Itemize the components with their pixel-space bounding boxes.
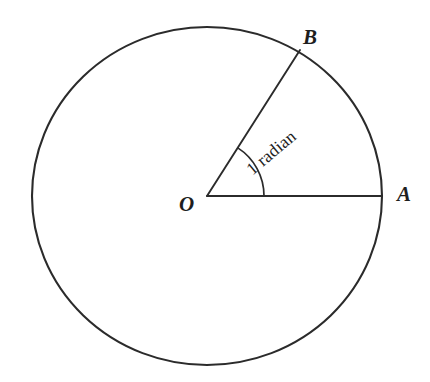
label-o: O (179, 192, 194, 216)
circle-radian-diagram: O A B (0, 0, 430, 382)
label-b: B (302, 25, 317, 49)
label-a: A (395, 182, 411, 206)
geometry-figure: O A B 1 radian (0, 0, 430, 382)
